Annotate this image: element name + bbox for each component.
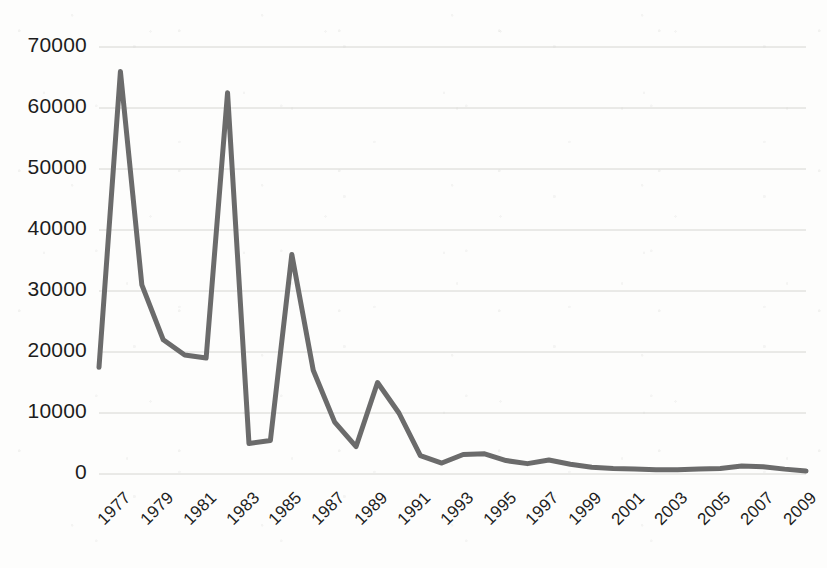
y-axis-tick-label: 0: [75, 460, 87, 484]
plot-area: [0, 0, 827, 568]
data-series-line: [99, 71, 806, 471]
y-axis-tick-label: 60000: [28, 94, 87, 118]
series-line: [99, 71, 806, 471]
y-axis-tick-label: 20000: [28, 338, 87, 362]
y-axis-tick-label: 40000: [28, 216, 87, 240]
line-chart: 010000200003000040000500006000070000 197…: [0, 0, 827, 568]
y-axis-tick-label: 10000: [28, 399, 87, 423]
y-axis-tick-label: 50000: [28, 155, 87, 179]
y-axis-tick-label: 30000: [28, 277, 87, 301]
gridlines: [99, 47, 806, 474]
y-axis-tick-label: 70000: [28, 33, 87, 57]
